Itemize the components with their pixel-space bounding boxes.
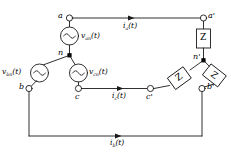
node-label-b-prime: b' (207, 83, 214, 91)
node-label-c-prime: c' (146, 93, 153, 101)
circuit-schematic-svg: a' ===== --> (0, 0, 231, 152)
vcn-arg: (t) (99, 67, 108, 76)
van-sub: an (85, 36, 91, 41)
wire-n-to-source-vbn (43, 55, 70, 65)
ib-arg: (t) (115, 138, 124, 147)
impedance-label-phase-a: Z (200, 33, 206, 42)
node-label-n-prime: n' (193, 53, 200, 61)
current-label-ic: ic(t) (112, 92, 126, 100)
node-label-b: b (19, 83, 24, 91)
terminal-node-c (75, 85, 81, 91)
wire-n-prime-to-z-c (190, 60, 204, 70)
circuit-diagram-canvas: a' ===== --> (0, 0, 231, 152)
ic-sub: c (114, 96, 117, 101)
current-label-ia: ia(t) (123, 22, 137, 30)
wire-n-to-source-vcn (70, 55, 76, 64)
current-arrow-ia (128, 16, 135, 21)
terminal-node-c-prime (147, 85, 153, 91)
ib-sub: b (112, 143, 115, 148)
van-arg: (t) (91, 31, 100, 40)
terminal-node-a-prime (200, 15, 206, 21)
node-label-a: a (58, 12, 63, 20)
ic-arg: (t) (117, 91, 126, 100)
source-label-van: van(t) (81, 32, 100, 40)
node-label-a-prime: a' (208, 12, 215, 20)
ia-sub: a (125, 26, 128, 31)
vcn-sub: cn (93, 72, 99, 77)
vbn-arg: (t) (12, 67, 21, 76)
node-label-n: n (58, 49, 63, 57)
vbn-sub: bn (6, 72, 12, 77)
source-label-vbn: vbn(t) (2, 68, 21, 76)
terminal-node-a (66, 15, 72, 21)
terminal-node-b (26, 85, 32, 91)
node-label-c: c (75, 93, 79, 101)
current-label-ib: ib(t) (110, 139, 124, 147)
source-label-vcn: vcn(t) (89, 68, 108, 76)
ia-arg: (t) (128, 21, 137, 30)
terminal-node-b-prime (199, 85, 205, 91)
wire-source-vbn-to-b (32, 81, 37, 86)
wire-z-c-to-c-prime (154, 86, 170, 89)
